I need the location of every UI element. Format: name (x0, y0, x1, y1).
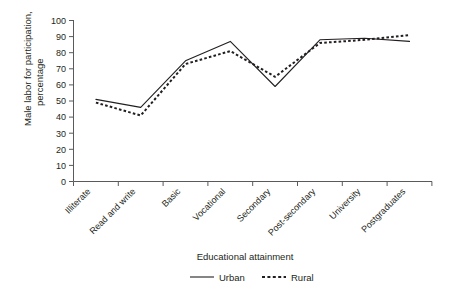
y-tick-label: 80 (56, 48, 66, 58)
y-tick-label: 30 (56, 129, 66, 139)
legend-label-rural: Rural (291, 272, 314, 283)
legend-label-urban: Urban (219, 272, 245, 283)
chart-container: Male labor for participation, percentage… (0, 0, 449, 293)
y-axis-title-line1: Male labor for participation, (22, 11, 33, 126)
y-tick-label: 10 (56, 161, 66, 171)
y-tick-label: 60 (56, 80, 66, 90)
y-tick-label: 70 (56, 64, 66, 74)
x-axis-title: Educational attainment (197, 251, 294, 262)
y-tick-label: 100 (51, 16, 66, 26)
y-tick-label: 50 (56, 96, 66, 106)
y-tick-label: 20 (56, 145, 66, 155)
y-tick-label: 40 (56, 112, 66, 122)
y-tick-label: 90 (56, 32, 66, 42)
y-axis-title-line2: percentage (34, 58, 45, 106)
y-tick-label: 0 (61, 177, 66, 187)
